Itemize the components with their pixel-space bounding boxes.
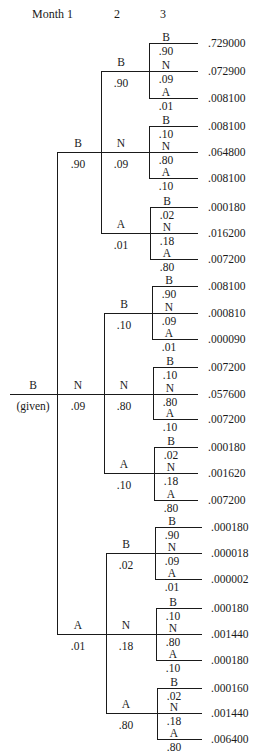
month3-branch-line: [155, 579, 202, 580]
month3-branch-line: [154, 447, 198, 448]
month3-state-label: A: [162, 86, 170, 98]
joint-probability-value: .000018: [211, 547, 248, 559]
month3-state-label: B: [163, 195, 171, 207]
month3-prob-label: .10: [159, 128, 173, 140]
month3-branch-line: [149, 126, 198, 127]
joint-probability-value: .007200: [208, 494, 245, 506]
month3-state-label: A: [169, 648, 177, 660]
month3-prob-label: .90: [165, 529, 179, 541]
month3-branch-line: [150, 233, 198, 234]
joint-probability-value: .001440: [211, 707, 248, 719]
month2-branch-line: [106, 553, 155, 554]
month2-state-label: A: [122, 698, 130, 710]
month3-branch-line: [154, 473, 198, 474]
joint-probability-value: .064800: [208, 146, 245, 158]
month3-branch-line: [153, 419, 198, 420]
month3-prob-label: .01: [159, 100, 173, 112]
month3-state-label: N: [162, 59, 170, 71]
month2-prob-label: .10: [117, 479, 131, 491]
month2-prob-label: .09: [114, 158, 128, 170]
month3-branch-line: [153, 394, 198, 395]
header-month-1: Month 1: [32, 8, 73, 20]
month3-state-label: N: [166, 382, 174, 394]
month2-branch-line: [104, 394, 153, 395]
month3-state-label: A: [168, 567, 176, 579]
month2-prob-label: .80: [117, 400, 131, 412]
month3-branch-line: [152, 313, 198, 314]
month3-state-label: B: [170, 676, 178, 688]
month2-prob-label: .10: [117, 319, 131, 331]
month3-prob-label: .02: [160, 209, 174, 221]
month3-state-label: B: [168, 515, 176, 527]
month3-prob-label: .09: [162, 315, 176, 327]
month2-branch-line: [101, 233, 150, 234]
month2-state-label: N: [120, 379, 128, 391]
root-note-label: (given): [16, 400, 49, 412]
month3-prob-label: .90: [162, 288, 176, 300]
joint-probability-value: .072900: [208, 65, 245, 77]
month3-state-label: N: [169, 622, 177, 634]
month3-state-label: A: [166, 407, 174, 419]
month2-branch-line: [104, 473, 154, 474]
month3-state-label: B: [166, 355, 174, 367]
month2-state-label: A: [120, 458, 128, 470]
month2-state-label: A: [117, 218, 125, 230]
month3-state-label: B: [167, 435, 175, 447]
month1-prob-label: .09: [71, 400, 85, 412]
joint-probability-value: .000160: [211, 682, 248, 694]
month1-prob-label: .01: [71, 640, 85, 652]
month3-prob-label: .10: [166, 662, 180, 674]
joint-probability-value: .001620: [208, 467, 245, 479]
joint-probability-value: .008100: [208, 280, 245, 292]
joint-probability-value: .729000: [208, 37, 245, 49]
joint-probability-value: .008100: [208, 172, 245, 184]
probability-tree-diagram: Month 1 2 3 B(given)B.90B.90B.90.729000N…: [0, 0, 267, 756]
month3-prob-label: .01: [162, 341, 176, 353]
month3-state-label: N: [170, 701, 178, 713]
month3-state-label: B: [169, 596, 177, 608]
month3-state-label: N: [163, 221, 171, 233]
joint-probability-value: .007200: [208, 253, 245, 265]
month2-branch-line: [106, 634, 156, 635]
joint-probability-value: .006400: [211, 733, 248, 745]
joint-probability-value: .000810: [208, 307, 245, 319]
month2-prob-label: .80: [119, 719, 133, 731]
joint-probability-value: .000180: [211, 602, 248, 614]
month3-branch-line: [149, 98, 198, 99]
month3-prob-label: .18: [164, 475, 178, 487]
month2-branch-line: [104, 313, 152, 314]
month3-prob-label: .10: [166, 610, 180, 622]
month3-prob-label: .09: [159, 73, 173, 85]
month2-state-label: B: [122, 538, 130, 550]
month3-branch-line: [155, 527, 202, 528]
joint-probability-value: .001440: [211, 628, 248, 640]
month3-branch-line: [157, 713, 202, 714]
month3-vertical-connector: [153, 367, 154, 419]
month2-branch-line: [101, 71, 149, 72]
joint-probability-value: .000090: [208, 333, 245, 345]
month3-branch-line: [149, 178, 198, 179]
month2-prob-label: .01: [114, 239, 128, 251]
joint-probability-value: .007200: [208, 413, 245, 425]
month3-branch-line: [156, 634, 202, 635]
month2-branch-line: [106, 713, 157, 714]
month3-branch-line: [149, 71, 198, 72]
month3-state-label: N: [167, 461, 175, 473]
month3-branch-line: [150, 259, 198, 260]
month3-state-label: N: [162, 140, 170, 152]
month3-prob-label: .80: [159, 154, 173, 166]
month1-branch-line: [57, 152, 101, 153]
month1-state-label: N: [74, 379, 82, 391]
month2-prob-label: .02: [119, 559, 133, 571]
month3-state-label: N: [168, 541, 176, 553]
month2-state-label: B: [120, 298, 128, 310]
month2-vertical-connector: [104, 313, 105, 473]
month2-state-label: N: [117, 137, 125, 149]
month3-state-label: N: [165, 301, 173, 313]
month3-prob-label: .02: [164, 449, 178, 461]
month3-state-label: A: [163, 247, 171, 259]
joint-probability-value: .000180: [211, 521, 248, 533]
month3-branch-line: [152, 339, 198, 340]
month3-state-label: A: [170, 727, 178, 739]
month3-prob-label: .01: [165, 581, 179, 593]
